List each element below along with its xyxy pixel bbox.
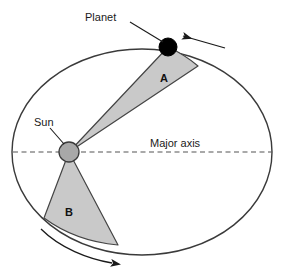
sun-label: Sun [34, 116, 54, 128]
motion-arrow-top-icon [183, 36, 225, 48]
sun-body [59, 142, 79, 162]
planet-label: Planet [85, 11, 116, 23]
major-axis-label: Major axis [150, 137, 201, 149]
orbit-diagram-canvas: Planet Sun Major axis A B [0, 0, 284, 270]
sun-leader-line [50, 128, 64, 144]
sector-a-label: A [160, 72, 168, 84]
kepler-second-law-diagram: Planet Sun Major axis A B [0, 0, 284, 270]
sector-b-label: B [65, 206, 73, 218]
sector-b-shape [44, 152, 118, 245]
planet-leader-line [130, 22, 163, 42]
